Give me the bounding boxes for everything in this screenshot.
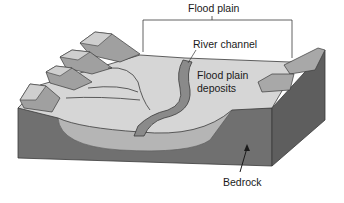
flood-plain-deposits-label-line1: Flood plain xyxy=(197,69,248,81)
river-channel-label: River channel xyxy=(193,38,257,50)
flood-plain-deposits-label-line2: deposits xyxy=(197,82,236,94)
flood-plain-label: Flood plain xyxy=(188,2,239,14)
bedrock-label: Bedrock xyxy=(223,176,262,188)
flood-plain-diagram xyxy=(0,0,344,203)
flood-plain-bracket xyxy=(143,16,292,58)
